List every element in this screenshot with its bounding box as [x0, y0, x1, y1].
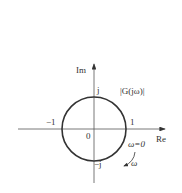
- tick-pos-j: j: [96, 85, 100, 95]
- tick-pos-one: 1: [130, 117, 135, 127]
- start-label: ω=0: [128, 139, 145, 149]
- origin-label: 0: [86, 131, 91, 141]
- nyquist-diagram: Im Re 0 −1 1 j −j |G(jω)| ω=0 ω: [0, 0, 182, 193]
- curve-label: |G(jω)|: [120, 86, 145, 96]
- tick-neg-one: −1: [46, 117, 56, 127]
- tick-neg-j: −j: [94, 159, 102, 169]
- x-axis-label: Re: [156, 134, 166, 144]
- y-axis-label: Im: [76, 65, 86, 75]
- direction-label: ω: [131, 158, 137, 168]
